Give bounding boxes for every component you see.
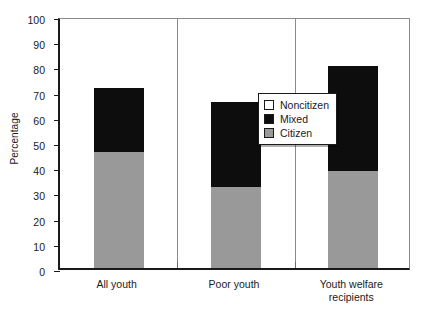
y-axis-tick: 50 — [54, 145, 60, 146]
y-axis-tick: 40 — [54, 170, 60, 171]
legend-item-mixed[interactable]: Mixed — [264, 112, 329, 126]
bar-segment-citizen — [328, 171, 378, 268]
y-axis-tick: 10 — [54, 246, 60, 247]
y-axis-tick: 60 — [54, 120, 60, 121]
y-axis-tick-label: 100 — [15, 14, 45, 26]
x-axis-label-line: All youth — [97, 278, 137, 291]
x-axis-label-line: recipients — [320, 291, 383, 304]
category-divider — [177, 19, 178, 268]
x-axis-tick-label: Poor youth — [209, 278, 260, 291]
y-axis-tick-label: 30 — [15, 190, 45, 202]
legend-swatch-noncitizen — [264, 100, 274, 110]
y-axis-tick: 90 — [54, 44, 60, 45]
y-axis-tick-label: 90 — [15, 39, 45, 51]
y-axis-tick: 80 — [54, 69, 60, 70]
y-axis-tick-label: 50 — [15, 140, 45, 152]
legend-label: Mixed — [280, 113, 308, 125]
plot-area: 0102030405060708090100 — [58, 18, 410, 270]
bar-all-youth[interactable] — [94, 16, 144, 268]
legend-swatch-citizen — [264, 128, 274, 138]
y-axis-tick: 100 — [54, 19, 60, 20]
legend-item-noncitizen[interactable]: Noncitizen — [264, 98, 329, 112]
y-axis-tick-label: 40 — [15, 165, 45, 177]
x-axis-tick — [177, 262, 178, 268]
bar-segment-mixed — [211, 102, 261, 188]
y-axis-tick-label: 70 — [15, 90, 45, 102]
y-axis-tick-label: 0 — [15, 266, 45, 278]
x-axis-tick-label: All youth — [97, 278, 137, 291]
y-axis-tick: 0 — [54, 271, 60, 272]
x-axis-label-line: Poor youth — [209, 278, 260, 291]
y-axis-tick-label: 60 — [15, 115, 45, 127]
bar-segment-mixed — [94, 88, 144, 152]
y-axis-tick: 70 — [54, 95, 60, 96]
y-axis-tick-label: 80 — [15, 64, 45, 76]
legend-label: Noncitizen — [280, 99, 329, 111]
y-axis-tick-label: 10 — [15, 241, 45, 253]
legend-item-citizen[interactable]: Citizen — [264, 126, 329, 140]
chart-legend: NoncitizenMixedCitizen — [258, 93, 337, 145]
stacked-bar-chart: Percentage 0102030405060708090100 All yo… — [0, 0, 426, 309]
y-axis-tick-label: 20 — [15, 216, 45, 228]
y-axis-tick: 30 — [54, 195, 60, 196]
y-axis-tick: 20 — [54, 221, 60, 222]
bar-segment-citizen — [94, 152, 144, 268]
x-axis-tick-label: Youth welfarerecipients — [320, 278, 383, 303]
legend-label: Citizen — [280, 127, 312, 139]
x-axis-label-line: Youth welfare — [320, 278, 383, 291]
bar-segment-citizen — [211, 187, 261, 268]
legend-swatch-mixed — [264, 114, 274, 124]
x-axis-tick — [295, 262, 296, 268]
bar-poor-youth[interactable] — [211, 16, 261, 268]
